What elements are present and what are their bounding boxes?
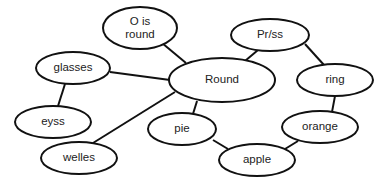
node-round: Round xyxy=(169,58,275,102)
edge-pie-apple xyxy=(213,140,228,149)
edge-orange-apple xyxy=(285,141,298,149)
node-welles: welles xyxy=(41,142,117,174)
node-eyss: eyss xyxy=(15,106,91,138)
node-label: glasses xyxy=(54,61,93,73)
edge-prss-ring xyxy=(305,44,324,65)
node-prss: Pr/ss xyxy=(231,19,309,51)
node-label: ring xyxy=(325,73,344,85)
node-pie: pie xyxy=(148,113,216,145)
node-label: welles xyxy=(62,151,95,163)
node-label: Pr/ss xyxy=(257,28,283,40)
concept-map-diagram: O isroundglasseseysswellesRoundpiePr/ssr… xyxy=(0,0,388,190)
node-label: O is xyxy=(130,15,151,27)
nodes: O isroundglasseseysswellesRoundpiePr/ssr… xyxy=(15,7,373,176)
node-o_is_round: O isround xyxy=(103,7,177,49)
edge-round-prss xyxy=(245,50,258,61)
node-label: orange xyxy=(302,120,338,132)
node-label: eyss xyxy=(41,115,65,127)
node-glasses: glasses xyxy=(36,52,110,84)
edge-ring-orange xyxy=(332,96,335,112)
node-label: apple xyxy=(243,153,271,165)
edge-glasses-round xyxy=(110,72,170,80)
edge-o_is_round-round xyxy=(162,43,186,63)
node-apple: apple xyxy=(219,144,295,176)
node-label: Round xyxy=(205,73,239,85)
edge-round-pie xyxy=(193,101,197,114)
node-ring: ring xyxy=(297,64,373,96)
node-orange: orange xyxy=(282,111,358,143)
node-label: round xyxy=(125,28,154,40)
node-label: pie xyxy=(174,122,189,134)
edge-glasses-eyss xyxy=(58,84,65,106)
